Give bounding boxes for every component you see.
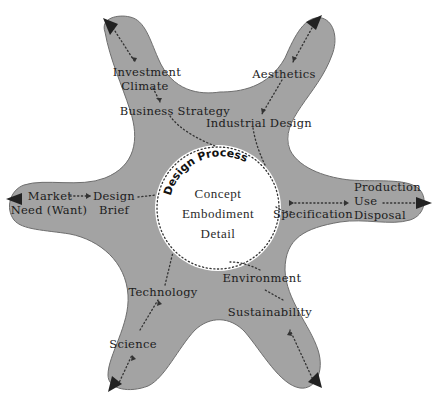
label-disposal: Disposal	[354, 208, 406, 222]
label-investment: Investment	[113, 65, 182, 79]
stage-detail: Detail	[201, 226, 236, 241]
label-use: Use	[354, 194, 377, 208]
label-environment: Environment	[223, 271, 302, 285]
label-need-want: Need (Want)	[11, 203, 88, 217]
stage-embodiment: Embodiment	[182, 206, 254, 221]
stage-concept: Concept	[195, 186, 242, 201]
label-sustainability: Sustainability	[228, 305, 313, 319]
label-aesthetics: Aesthetics	[251, 67, 316, 81]
design-process-diagram: Design Process Concept Embodiment Detail	[0, 0, 438, 400]
label-science: Science	[109, 337, 157, 351]
label-specification: Specification	[273, 207, 353, 221]
label-production: Production	[354, 180, 421, 194]
label-market: Market	[28, 189, 72, 203]
label-climate: Climate	[121, 79, 168, 93]
label-technology: Technology	[128, 285, 197, 299]
label-design: Design	[93, 189, 135, 203]
label-industrial-design: Industrial Design	[206, 116, 312, 130]
label-brief: Brief	[99, 203, 130, 217]
